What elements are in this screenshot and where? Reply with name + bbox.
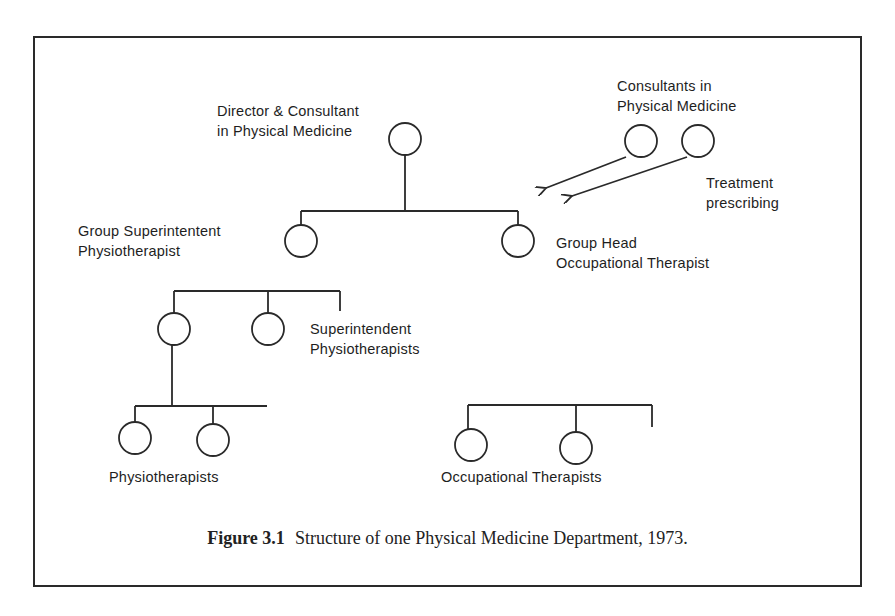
figure-caption-text: Structure of one Physical Medicine Depar…: [295, 528, 688, 548]
consultant-node-1: [625, 125, 657, 157]
group-head-ot-node: [502, 225, 534, 257]
supt-physios-label: Superintendent Physiotherapists: [310, 319, 420, 359]
prescribing-arrow-2: [572, 157, 687, 196]
ot-node-1: [455, 429, 487, 461]
ot-node-2: [560, 432, 592, 464]
supt-physio-node-1: [158, 313, 190, 345]
physios-label: Physiotherapists: [109, 467, 219, 487]
prescribing-arrow-1: [546, 157, 626, 188]
figure-caption: Figure 3.1Structure of one Physical Medi…: [0, 528, 895, 549]
group-supt-physio-node: [285, 225, 317, 257]
physio-node-2: [197, 424, 229, 456]
physio-node-1: [119, 422, 151, 454]
supt-physio-node-2: [252, 313, 284, 345]
figure-number: Figure 3.1: [207, 528, 285, 548]
ots-label: Occupational Therapists: [441, 467, 602, 487]
director-label: Director & Consultant in Physical Medici…: [217, 101, 359, 141]
group-head-ot-label: Group Head Occupational Therapist: [556, 233, 709, 273]
consultants-label: Consultants in Physical Medicine: [617, 76, 736, 116]
treatment-prescribing-label: Treatment prescribing: [706, 173, 779, 213]
consultant-node-2: [682, 125, 714, 157]
director-node: [389, 123, 421, 155]
org-chart: [0, 0, 895, 616]
group-supt-physio-label: Group Superintentent Physiotherapist: [78, 221, 221, 261]
